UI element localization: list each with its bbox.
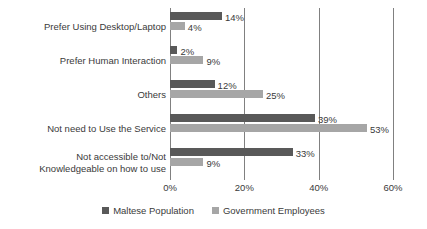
- bar-group: 2% 9%: [170, 46, 393, 76]
- bar-value-label: 39%: [318, 115, 337, 124]
- category-label: Prefer Human Interaction: [0, 55, 166, 67]
- bar-government-employees: [170, 124, 367, 132]
- bar-group: 39% 53%: [170, 114, 393, 144]
- bar-government-employees: [170, 158, 203, 166]
- bar-value-label: 14%: [225, 13, 244, 22]
- bar-value-label: 33%: [296, 149, 315, 158]
- x-tick-label: 0%: [163, 182, 177, 194]
- category-label: Prefer Using Desktop/Laptop: [0, 21, 166, 33]
- bar-value-label: 9%: [206, 57, 220, 66]
- value-axis: 0% 20% 40% 60%: [0, 182, 427, 196]
- bar-maltese-population: [170, 46, 177, 54]
- x-tick-label: 20%: [235, 182, 254, 194]
- legend-item-government-employees[interactable]: Government Employees: [212, 205, 325, 216]
- bar-maltese-population: [170, 12, 222, 20]
- bar-value-label: 2%: [180, 47, 194, 56]
- chart-legend: Maltese Population Government Employees: [0, 205, 427, 216]
- legend-swatch-icon: [102, 207, 109, 214]
- bar-group: 14% 4%: [170, 12, 393, 42]
- bar-value-label: 4%: [188, 23, 202, 32]
- category-label: Others: [0, 89, 166, 101]
- bar-government-employees: [170, 22, 185, 30]
- gridline-60: [393, 8, 394, 180]
- plot-area: 14% 4% 2% 9% 12% 25% 39% 53% 33%: [170, 8, 393, 180]
- bar-value-label: 53%: [370, 125, 389, 134]
- legend-item-maltese-population[interactable]: Maltese Population: [102, 205, 194, 216]
- legend-swatch-icon: [212, 207, 219, 214]
- bar-group: 12% 25%: [170, 80, 393, 110]
- legend-label: Maltese Population: [113, 205, 194, 216]
- category-label: Not accessible to/Not Knowledgeable on h…: [0, 151, 166, 174]
- bar-maltese-population: [170, 114, 315, 122]
- bar-maltese-population: [170, 80, 215, 88]
- bar-maltese-population: [170, 148, 293, 156]
- category-axis: Prefer Using Desktop/Laptop Prefer Human…: [0, 8, 166, 180]
- category-label: Not need to Use the Service: [0, 123, 166, 135]
- bar-group: 33% 9%: [170, 148, 393, 178]
- x-tick-label: 60%: [383, 182, 402, 194]
- bar-value-label: 25%: [266, 91, 285, 100]
- x-tick-label: 40%: [309, 182, 328, 194]
- legend-label: Government Employees: [223, 205, 325, 216]
- bar-chart: Prefer Using Desktop/Laptop Prefer Human…: [0, 0, 427, 229]
- bar-value-label: 9%: [206, 159, 220, 168]
- bar-government-employees: [170, 90, 263, 98]
- bar-government-employees: [170, 56, 203, 64]
- bar-value-label: 12%: [218, 81, 237, 90]
